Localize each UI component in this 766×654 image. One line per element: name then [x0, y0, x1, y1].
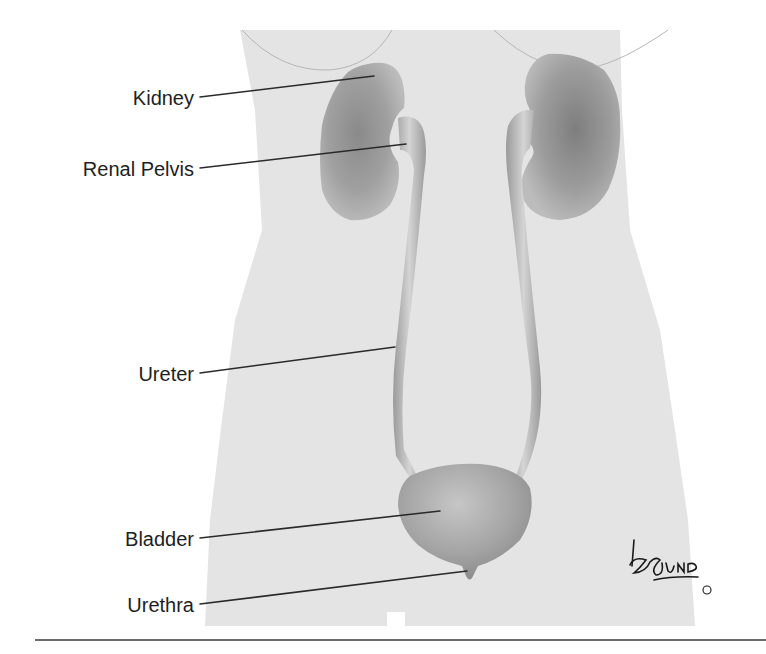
label-renal-pelvis: Renal Pelvis [83, 157, 194, 181]
label-urethra: Urethra [127, 593, 194, 617]
urinary-system-diagram: Kidney Renal Pelvis Ureter Bladder Ureth… [0, 0, 766, 654]
anatomy-illustration [0, 0, 766, 654]
label-bladder: Bladder [125, 527, 194, 551]
label-ureter: Ureter [138, 362, 194, 386]
label-kidney: Kidney [133, 86, 194, 110]
